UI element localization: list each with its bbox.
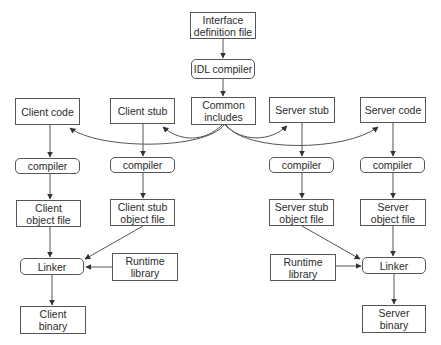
node-client-compiler: compiler (15, 158, 80, 174)
node-client-stub-compiler: compiler (110, 157, 175, 173)
node-label: Linker (38, 261, 67, 273)
node-label-line2: library (283, 268, 322, 280)
node-label: IDL compiler (194, 63, 253, 75)
node-client-stub-object-file: Client stubobject file (110, 199, 175, 226)
edge-common-to-server-stub (225, 125, 287, 138)
node-label-line1: Server (371, 201, 415, 213)
node-server-runtime-library: Runtimelibrary (270, 254, 336, 281)
node-client-code: Client code (15, 98, 80, 125)
node-label-line2: binary (39, 320, 68, 332)
node-client-linker: Linker (20, 258, 84, 275)
node-label-line2: definition file (194, 26, 252, 38)
node-server-compiler: compiler (360, 157, 425, 173)
node-client-stub: Client stub (110, 98, 175, 124)
node-label-line1: Runtime (283, 256, 322, 268)
node-label: compiler (28, 160, 68, 172)
node-server-code: Server code (360, 97, 426, 123)
node-label-line1: Server (379, 307, 410, 319)
node-label-line2: object file (26, 214, 70, 226)
diagram-canvas: Interfacedefinition file IDL compiler Cl… (0, 0, 441, 345)
node-label-line2: object file (118, 213, 168, 225)
node-label: compiler (282, 159, 322, 171)
node-label-line2: object file (275, 213, 329, 225)
node-client-object-file: Clientobject file (16, 200, 81, 227)
node-server-binary: Serverbinary (362, 305, 426, 333)
node-idl-compiler: IDL compiler (191, 59, 255, 79)
node-label: compiler (373, 159, 413, 171)
node-label-line2: object file (371, 213, 415, 225)
node-server-linker: Linker (362, 257, 426, 274)
node-label: Server code (365, 104, 422, 116)
node-label-line1: Interface (194, 14, 252, 26)
node-interface-definition-file: Interfacedefinition file (190, 12, 256, 39)
node-label-line2: binary (379, 319, 410, 331)
node-server-stub: Server stub (269, 97, 335, 123)
node-client-binary: Clientbinary (20, 306, 86, 334)
node-label-line1: Runtime (125, 255, 164, 267)
node-label: Client stub (118, 105, 168, 117)
node-label-line2: includes (202, 111, 245, 123)
node-label-line1: Client (26, 202, 70, 214)
node-label-line1: Client stub (118, 201, 168, 213)
node-label-line1: Server stub (275, 201, 329, 213)
edge-common-to-client-stub (163, 125, 222, 138)
node-label: Client code (21, 106, 74, 118)
node-client-runtime-library: Runtimelibrary (112, 253, 178, 281)
node-label: Linker (380, 260, 409, 272)
node-server-stub-compiler: compiler (269, 157, 334, 173)
node-label: compiler (123, 159, 163, 171)
node-label: Server stub (275, 104, 329, 116)
node-label-line1: Common (202, 99, 245, 111)
node-server-stub-object-file: Server stubobject file (269, 199, 334, 226)
node-common-includes: Commonincludes (191, 97, 256, 125)
node-label-line1: Client (39, 308, 68, 320)
edge-common-to-client-code (70, 125, 224, 144)
node-label-line2: library (125, 267, 164, 279)
node-server-object-file: Serverobject file (360, 199, 426, 226)
